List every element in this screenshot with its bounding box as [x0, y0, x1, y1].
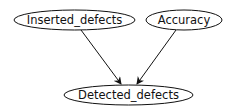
arrow-icon [81, 30, 121, 84]
node-label: Detected_defects [78, 88, 179, 102]
dependency-graph: Inserted_defects Accuracy Detected_defec… [0, 0, 231, 111]
node-label: Accuracy [158, 13, 211, 27]
node-label: Inserted_defects [27, 13, 122, 27]
edge-accuracy-to-detected [137, 30, 176, 84]
node-inserted-defects[interactable]: Inserted_defects [14, 10, 135, 30]
node-accuracy[interactable]: Accuracy [146, 10, 222, 30]
arrow-icon [137, 30, 176, 84]
edge-inserted-to-detected [81, 30, 121, 84]
node-detected-defects[interactable]: Detected_defects [64, 85, 193, 105]
